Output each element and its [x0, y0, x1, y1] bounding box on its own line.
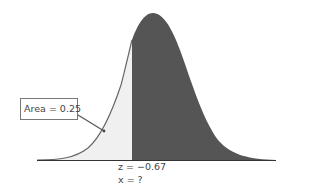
right-region [132, 13, 276, 160]
arrow-point [103, 130, 106, 133]
x-value-label: x = ? [118, 174, 143, 185]
callout-label: Area = 0.25 [24, 103, 81, 114]
z-value-label: z = −0.67 [118, 161, 166, 172]
callout-arrow [78, 115, 104, 131]
